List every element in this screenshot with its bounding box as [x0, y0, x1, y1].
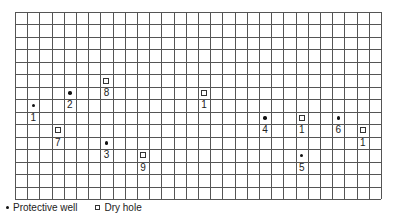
point-label: 8 [100, 87, 112, 99]
protective-well-marker [64, 87, 76, 99]
protective-well-icon [68, 91, 72, 95]
dry-hole-marker [137, 149, 149, 161]
legend-dry-hole-label: Dry hole [104, 202, 141, 213]
legend: Protective well Dry hole [6, 201, 160, 214]
protective-well-marker [100, 137, 112, 149]
protective-well-marker [259, 112, 271, 124]
point-label: 1 [27, 112, 39, 124]
dry-hole-icon [55, 127, 61, 133]
protective-well-marker [296, 149, 308, 161]
dry-hole-icon [95, 205, 100, 210]
protective-well-icon [32, 104, 36, 108]
dry-hole-icon [103, 78, 109, 84]
point-label: 7 [52, 137, 64, 149]
legend-protective-well: Protective well [6, 202, 77, 213]
point-label: 2 [64, 99, 76, 111]
point-label: 6 [332, 124, 344, 136]
protective-well-marker [332, 112, 344, 124]
protective-well-marker [27, 99, 39, 111]
point-label: 5 [296, 162, 308, 174]
protective-well-icon [263, 116, 267, 120]
protective-well-icon [300, 154, 304, 158]
legend-protective-well-label: Protective well [13, 202, 77, 213]
dry-hole-marker [296, 112, 308, 124]
protective-well-icon [6, 206, 9, 209]
protective-well-icon [337, 116, 341, 120]
dry-hole-icon [140, 152, 146, 158]
dry-hole-icon [360, 127, 366, 133]
dry-hole-icon [201, 90, 207, 96]
well-grid: 128739141561 [15, 12, 381, 199]
point-label: 1 [357, 137, 369, 149]
dry-hole-icon [299, 115, 305, 121]
point-label: 1 [296, 124, 308, 136]
protective-well-icon [105, 141, 109, 145]
dry-hole-marker [100, 74, 112, 86]
point-label: 4 [259, 124, 271, 136]
dry-hole-marker [357, 124, 369, 136]
dry-hole-marker [52, 124, 64, 136]
point-label: 9 [137, 162, 149, 174]
dry-hole-marker [198, 87, 210, 99]
point-label: 3 [100, 149, 112, 161]
point-label: 1 [198, 99, 210, 111]
legend-dry-hole: Dry hole [95, 202, 141, 213]
